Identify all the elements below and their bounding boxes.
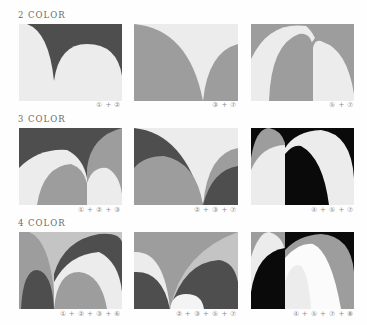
swatch-panel-2-3-5-7 [134, 232, 238, 309]
swatch-panel-3-7 [134, 24, 238, 101]
panel-caption: ① + ② [96, 101, 121, 109]
panel-caption: ① + ② + ③ + ⑥ [60, 310, 121, 318]
swatch-panel-5-7 [251, 24, 354, 101]
panel-caption: ⑤ + ⑦ [329, 101, 354, 109]
swatch-panel-4-5-7 [251, 128, 354, 205]
section-title-3-color: 3 COLOR [18, 114, 66, 124]
section-title-4-color: 4 COLOR [18, 218, 66, 228]
panel-caption: ③ + ⑦ [212, 101, 237, 109]
panel-caption: ④ + ⑤ + ⑦ [311, 206, 354, 214]
section-title-2-color: 2 COLOR [18, 10, 66, 20]
panel-caption: ① + ② + ③ [78, 206, 121, 214]
swatch-panel-2-3-7 [134, 128, 238, 205]
panel-caption: ④ + ⑤ + ⑦ + ⑧ [293, 310, 354, 318]
swatch-panel-1-2-3-6 [19, 232, 122, 309]
panel-caption: ② + ③ + ⑦ [194, 206, 237, 214]
swatch-panel-1-2 [19, 24, 122, 101]
panel-caption: ② + ③ + ⑤ + ⑦ [176, 310, 237, 318]
swatch-panel-4-5-7-8 [251, 232, 354, 309]
swatch-panel-1-2-3 [19, 128, 122, 205]
